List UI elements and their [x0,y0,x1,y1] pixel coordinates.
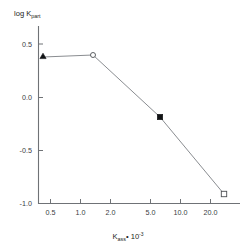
chart-figure: log Kpart 0.5 0.0 -0.5 -1.0 0.5 1.0 2.0 … [0,0,247,249]
chart-svg: log Kpart 0.5 0.0 -0.5 -1.0 0.5 1.0 2.0 … [0,0,247,249]
x-tick-label-5: 20.0 [204,208,218,217]
y-tick-label-0: 0.5 [22,40,32,49]
data-point-marker-open-square [221,191,226,196]
x-tick-label-0: 0.5 [46,208,56,217]
x-axis-title-multiplier: • 10 [126,232,139,241]
x-tick-label-3: 5.0 [146,208,156,217]
y-axis-title-subscript: part [31,13,41,19]
x-axis-title-subscript: ass [118,236,127,242]
y-tick-label-3: -1.0 [20,199,32,208]
x-axis-title: Kass• 10-3 [112,231,143,242]
y-axis-title-main: log K [14,9,31,18]
y-axis-title: log Kpart [14,9,41,19]
y-tick-marks [39,44,44,204]
data-point-marker-filled-triangle [40,53,46,58]
x-tick-label-2: 2.0 [106,208,116,217]
data-series-line [43,55,224,194]
x-tick-label-1: 1.0 [76,208,86,217]
x-tick-marks [51,199,211,204]
y-tick-label-2: -0.5 [20,146,32,155]
x-axis-title-exponent: -3 [139,231,144,237]
y-tick-label-1: 0.0 [22,93,32,102]
data-point-marker-open-circle [91,53,96,58]
data-point-marker-filled-square [157,114,162,119]
x-tick-label-4: 10.0 [174,208,188,217]
